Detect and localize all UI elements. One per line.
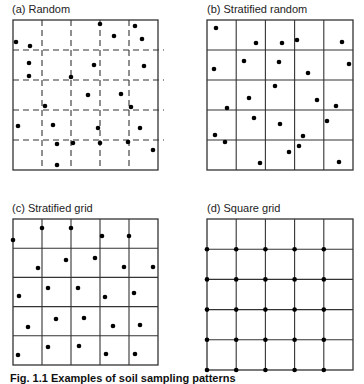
sample-point xyxy=(205,277,210,282)
sample-point xyxy=(295,38,300,43)
sample-point xyxy=(103,295,108,300)
sample-point xyxy=(17,294,22,299)
sample-point xyxy=(122,265,127,270)
sample-point xyxy=(151,265,156,270)
sample-point xyxy=(278,122,283,127)
sample-point xyxy=(234,247,239,252)
sample-point xyxy=(98,22,103,27)
sample-point xyxy=(242,59,247,64)
sample-point xyxy=(132,291,137,296)
sample-point xyxy=(26,325,31,330)
sample-point xyxy=(27,74,32,79)
panel-d-grid xyxy=(205,219,353,372)
sample-point xyxy=(263,247,268,252)
sample-point xyxy=(315,98,320,103)
panel-c-grid xyxy=(11,219,158,365)
sample-point xyxy=(142,64,147,69)
sample-point xyxy=(205,307,210,312)
sample-point xyxy=(306,71,311,76)
sample-point xyxy=(119,92,124,97)
sample-point xyxy=(322,247,327,252)
sample-point xyxy=(322,368,327,373)
sample-point xyxy=(292,368,297,373)
sample-point xyxy=(86,93,91,98)
sample-point xyxy=(280,41,285,46)
sample-point xyxy=(273,84,278,89)
sample-point xyxy=(287,150,292,155)
sample-point xyxy=(112,34,117,39)
sample-point xyxy=(223,140,228,145)
sample-point xyxy=(225,106,230,111)
sample-point xyxy=(140,37,145,42)
sample-point xyxy=(322,277,327,282)
sample-point xyxy=(93,256,98,261)
sample-point xyxy=(258,161,263,166)
sample-point xyxy=(16,353,21,358)
sample-point xyxy=(46,286,51,291)
sample-point xyxy=(254,41,259,46)
sample-point xyxy=(77,344,82,349)
sample-point xyxy=(138,126,143,131)
sample-point xyxy=(46,345,51,350)
sample-point xyxy=(234,277,239,282)
sample-point xyxy=(14,40,19,45)
sample-point xyxy=(36,266,41,271)
sample-point xyxy=(28,44,33,49)
sample-point xyxy=(263,338,268,343)
sample-point xyxy=(297,144,302,149)
figure-caption: Fig. 1.1 Examples of soil sampling patte… xyxy=(10,372,236,384)
sample-point xyxy=(133,24,138,29)
sample-point xyxy=(325,119,330,124)
sample-point xyxy=(214,26,219,31)
sample-point xyxy=(252,116,257,121)
sample-point xyxy=(234,307,239,312)
sample-point xyxy=(292,277,297,282)
sample-point xyxy=(292,247,297,252)
sample-point xyxy=(263,277,268,282)
sample-point xyxy=(96,126,101,131)
sample-point xyxy=(40,226,45,231)
sample-point xyxy=(292,307,297,312)
sample-point xyxy=(301,134,306,139)
panel-a-grid xyxy=(13,20,164,170)
sample-point xyxy=(27,61,32,66)
sample-point xyxy=(337,160,342,165)
sample-point xyxy=(55,142,60,147)
sample-point xyxy=(151,148,156,153)
sample-point xyxy=(71,141,76,146)
sample-point xyxy=(92,63,97,68)
sample-point xyxy=(322,307,327,312)
sample-point xyxy=(16,124,21,129)
sample-point xyxy=(76,286,81,291)
sample-point xyxy=(69,226,74,231)
sample-point xyxy=(340,40,345,45)
sample-point xyxy=(64,258,69,263)
sample-point xyxy=(205,338,210,343)
sample-point xyxy=(263,368,268,373)
sample-point xyxy=(322,338,327,343)
sample-point xyxy=(129,105,134,110)
sample-point xyxy=(292,338,297,343)
sample-point xyxy=(334,104,339,109)
sample-point xyxy=(234,338,239,343)
sample-point xyxy=(43,104,48,109)
sample-point xyxy=(11,238,16,243)
sample-point xyxy=(138,323,143,328)
sample-point xyxy=(277,60,282,65)
sample-point xyxy=(133,352,138,357)
sample-point xyxy=(111,324,116,329)
sample-point xyxy=(55,163,60,168)
sample-point xyxy=(104,352,109,357)
sample-point xyxy=(69,75,74,80)
sample-point xyxy=(205,247,210,252)
panel-b-grid xyxy=(207,20,353,170)
sample-point xyxy=(213,133,218,138)
sample-point xyxy=(82,316,87,321)
sample-point xyxy=(347,62,352,67)
sample-point xyxy=(127,234,132,239)
sample-point xyxy=(212,67,217,72)
sample-point xyxy=(263,307,268,312)
sample-point xyxy=(126,140,131,145)
sample-point xyxy=(51,123,56,128)
